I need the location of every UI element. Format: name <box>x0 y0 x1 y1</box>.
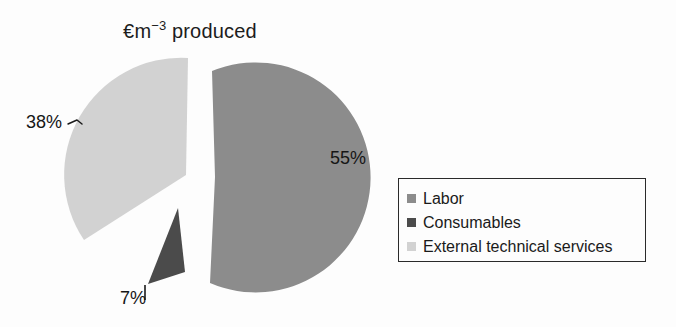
legend-label-consumables: Consumables <box>423 215 521 231</box>
pie-plot-area: 38% 55% 7% <box>0 0 390 327</box>
legend-item-consumables[interactable]: Consumables <box>407 211 645 234</box>
pie-label-consumables: 7% <box>120 288 146 309</box>
legend-swatch-labor <box>407 194 416 203</box>
pie-label-labor: 55% <box>330 148 366 169</box>
pie-slice-labor[interactable] <box>210 62 371 292</box>
legend-label-labor: Labor <box>423 191 464 207</box>
pie-slice-consumables[interactable] <box>148 208 185 284</box>
pie-label-external: 38% <box>26 112 62 133</box>
legend-label-external: External technical services <box>423 239 612 255</box>
pie-chart-figure: €m−3 produced 38% 55% 7% Labor Consumabl… <box>0 0 676 327</box>
pie-slice-external[interactable] <box>64 58 188 240</box>
legend-box: Labor Consumables External technical ser… <box>398 178 646 262</box>
legend-item-labor[interactable]: Labor <box>407 187 645 210</box>
legend-item-external[interactable]: External technical services <box>407 235 645 258</box>
legend-swatch-consumables <box>407 218 416 227</box>
legend-swatch-external <box>407 242 416 251</box>
